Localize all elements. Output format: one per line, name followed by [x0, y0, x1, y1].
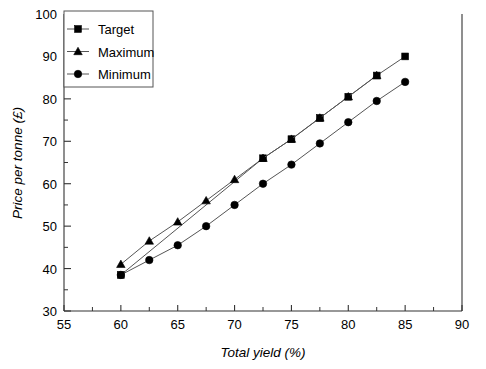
data-point-circle — [117, 271, 124, 278]
x-tick-label: 75 — [284, 317, 298, 332]
data-point-circle — [231, 201, 238, 208]
y-tick-label: 40 — [43, 262, 57, 277]
legend-item-label: Minimum — [98, 67, 151, 82]
legend-item-label: Maximum — [98, 45, 154, 60]
y-tick-label: 50 — [43, 219, 57, 234]
y-tick-label: 60 — [43, 177, 57, 192]
x-tick-label: 90 — [455, 317, 469, 332]
y-tick-label: 30 — [43, 304, 57, 319]
y-tick-label: 90 — [43, 49, 57, 64]
y-axis-title: Price per tonne (£) — [10, 107, 25, 219]
x-tick-label: 60 — [114, 317, 128, 332]
data-point-circle — [146, 256, 153, 263]
data-point-circle — [174, 241, 181, 248]
chart-legend: TargetMaximumMinimum — [64, 11, 154, 87]
x-axis-title: Total yield (%) — [220, 345, 305, 360]
data-point-circle — [401, 78, 408, 85]
y-tick-label: 80 — [43, 92, 57, 107]
y-tick-label: 100 — [35, 7, 57, 22]
y-tick-label: 70 — [43, 134, 57, 149]
x-tick-label: 85 — [398, 317, 412, 332]
line-chart: 5560657075808590 30405060708090100 Total… — [0, 0, 486, 369]
legend-item-label: Target — [98, 22, 135, 37]
data-point-square — [75, 26, 82, 33]
chart-container: 5560657075808590 30405060708090100 Total… — [0, 0, 486, 369]
data-point-circle — [316, 140, 323, 147]
x-tick-label: 70 — [227, 317, 241, 332]
data-point-circle — [74, 70, 81, 77]
data-point-square — [402, 53, 409, 60]
x-tick-label: 55 — [57, 317, 71, 332]
data-point-circle — [202, 222, 209, 229]
x-tick-label: 65 — [170, 317, 184, 332]
data-point-circle — [345, 118, 352, 125]
data-point-circle — [373, 97, 380, 104]
data-point-circle — [288, 161, 295, 168]
data-point-circle — [259, 180, 266, 187]
x-tick-label: 80 — [341, 317, 355, 332]
